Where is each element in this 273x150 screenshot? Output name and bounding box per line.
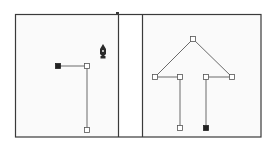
right-panel [143, 14, 261, 137]
anchor-point[interactable] [204, 75, 209, 80]
anchor-point-selected[interactable] [204, 126, 209, 131]
pen-path-diagram [0, 0, 273, 150]
anchor-point[interactable] [178, 126, 183, 131]
diagram-canvas [0, 0, 273, 150]
anchor-point[interactable] [85, 64, 90, 69]
anchor-point[interactable] [191, 37, 196, 42]
anchor-point[interactable] [85, 128, 90, 133]
anchor-point[interactable] [178, 75, 183, 80]
anchor-point[interactable] [153, 75, 158, 80]
anchor-point[interactable] [230, 75, 235, 80]
left-panel [15, 14, 118, 137]
divider-tick [116, 12, 119, 15]
anchor-point-selected[interactable] [56, 64, 61, 69]
